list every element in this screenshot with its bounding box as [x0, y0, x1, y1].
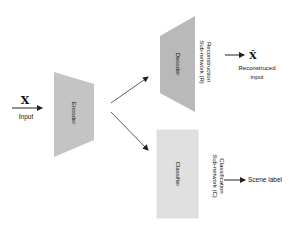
- reconstructed-label-line1: Reconstruced: [238, 65, 275, 71]
- classifier-label: Classifier: [175, 162, 181, 187]
- arrow-to-classifier: [111, 112, 148, 150]
- classification-subnetwork-line1: Classification: [219, 158, 225, 193]
- scene-label: Scene label: [248, 176, 283, 183]
- reconstruction-subnetwork-line1: Reconstruction: [206, 42, 212, 82]
- reconstruction-subnetwork-line2: Sub-network (R): [199, 40, 205, 84]
- classification-subnetwork-line2: Sub-network (C): [212, 154, 218, 198]
- decoder-label: Decoder: [175, 53, 181, 76]
- input-symbol: X: [21, 94, 30, 107]
- arrow-to-decoder: [111, 77, 148, 103]
- reconstructed-symbol: X̂: [249, 50, 257, 61]
- encoder-label: Encoder: [71, 102, 77, 124]
- reconstructed-label-line2: input: [250, 74, 263, 80]
- network-diagram: X Input Encoder Decoder Reconstruction S…: [0, 0, 300, 231]
- input-label: Input: [19, 113, 34, 121]
